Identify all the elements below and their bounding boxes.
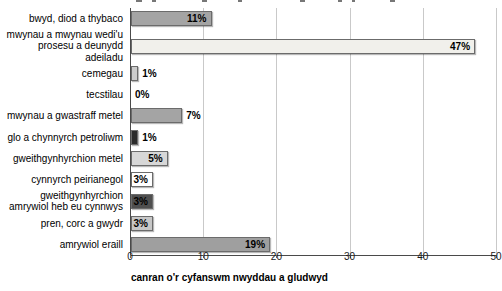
chart-row: cynnyrch peirianegol3%	[0, 169, 497, 190]
x-axis-tick-label: 0	[127, 251, 133, 262]
chart-row: glo a chynnyrch petroliwm1%	[0, 127, 497, 148]
bar-cell: 47%	[131, 29, 497, 63]
rows: bwyd, diod a thybaco11%mwynau a mwynau w…	[0, 8, 497, 255]
x-axis-tick-label: 40	[417, 251, 428, 262]
bar-cell: 19%	[131, 234, 497, 255]
chart-row: tecstilau0%	[0, 84, 497, 105]
bar-cell: 5%	[131, 148, 497, 169]
category-label: gweithgynhyrchion amrywiol heb eu cynnwy…	[0, 190, 131, 212]
bar-cell: 3%	[131, 213, 497, 234]
bar-chart: bwyd, diod a thybaco11%mwynau a mwynau w…	[0, 0, 502, 291]
x-axis-title: canran o'r cyfanswm nwyddau a gludwyd	[131, 272, 328, 283]
chart-row: mwynau a gwastraff metel7%	[0, 105, 497, 126]
bar: 3%	[131, 216, 153, 231]
bar-cell: 3%	[131, 190, 497, 212]
category-label: glo a chynnyrch petroliwm	[0, 132, 131, 143]
bar-cell: 1%	[131, 127, 497, 148]
value-label: 3%	[134, 218, 152, 229]
bar	[131, 108, 182, 123]
category-label: mwynau a gwastraff metel	[0, 110, 131, 121]
bar-cell: 3%	[131, 169, 497, 190]
category-label: gweithgynhyrchion metel	[0, 153, 131, 164]
value-label: 7%	[186, 110, 200, 121]
bar: 3%	[131, 172, 153, 187]
bar: 3%	[131, 194, 153, 209]
value-label: 3%	[134, 196, 152, 207]
chart-row: bwyd, diod a thybaco11%	[0, 8, 497, 29]
x-axis-tick-label: 20	[271, 251, 282, 262]
value-label: 19%	[245, 239, 269, 250]
bar: 47%	[131, 39, 475, 54]
bar: 5%	[131, 151, 168, 166]
bar-cell: 1%	[131, 63, 497, 84]
value-label: 3%	[134, 174, 152, 185]
category-label: pren, corc a gwydr	[0, 218, 131, 229]
value-label: 11%	[187, 13, 210, 24]
category-label: tecstilau	[0, 89, 131, 100]
value-label: 5%	[148, 153, 166, 164]
category-label: amrywiol eraill	[0, 239, 131, 250]
x-axis-tick-label: 50	[490, 251, 501, 262]
category-label: bwyd, diod a thybaco	[0, 13, 131, 24]
x-axis-tick-label: 30	[344, 251, 355, 262]
value-label: 47%	[450, 41, 474, 52]
value-label: 0%	[135, 89, 149, 100]
bar: 19%	[131, 237, 270, 252]
chart-row: mwynau a mwynau wedi'u prosesu a deunydd…	[0, 29, 497, 63]
chart-row: gweithgynhyrchion amrywiol heb eu cynnwy…	[0, 190, 497, 212]
bar-cell: 7%	[131, 105, 497, 126]
category-label: mwynau a mwynau wedi'u prosesu a deunydd…	[0, 29, 131, 63]
category-label: cynnyrch peirianegol	[0, 174, 131, 185]
bar-cell: 11%	[131, 8, 497, 29]
category-label: cemegau	[0, 68, 131, 79]
x-axis-tick-label: 10	[198, 251, 209, 262]
bar	[131, 66, 138, 81]
chart-row: cemegau1%	[0, 63, 497, 84]
bar: 11%	[131, 11, 212, 26]
chart-row: pren, corc a gwydr3%	[0, 213, 497, 234]
value-label: 1%	[142, 132, 156, 143]
bar-cell: 0%	[131, 84, 497, 105]
value-label: 1%	[142, 68, 156, 79]
chart-row: gweithgynhyrchion metel5%	[0, 148, 497, 169]
bar	[131, 130, 138, 145]
